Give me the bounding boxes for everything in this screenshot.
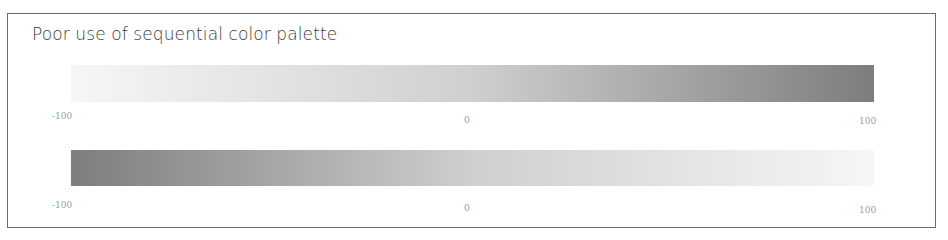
chart-title: Poor use of sequential color palette [32, 24, 337, 44]
tick-min: -100 [52, 111, 72, 121]
tick-min: -100 [52, 200, 72, 210]
sequential-palette-bar-dark-to-light [71, 150, 874, 186]
tick-mid: 0 [464, 115, 470, 125]
tick-max: 100 [859, 116, 876, 126]
sequential-palette-bar-light-to-dark [71, 65, 874, 102]
tick-mid: 0 [464, 203, 470, 213]
tick-max: 100 [859, 205, 876, 215]
chart-frame: Poor use of sequential color palette -10… [7, 13, 936, 228]
